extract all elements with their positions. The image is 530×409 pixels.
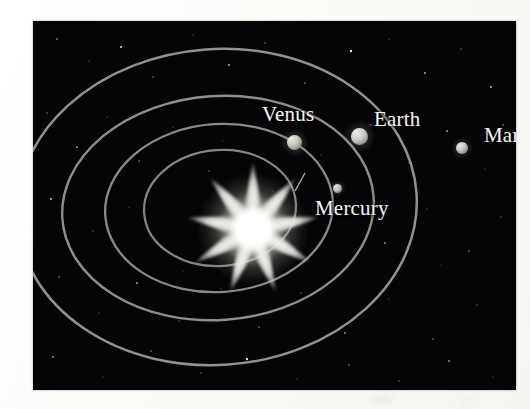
- night-sky-background: Venus Earth Mars Mercury: [33, 21, 516, 390]
- orbit-diagram: [33, 21, 516, 390]
- label-mars: Mars: [484, 125, 516, 146]
- astronomy-plate: Venus Earth Mars Mercury: [33, 21, 516, 390]
- orbit-mercury: [140, 145, 300, 271]
- mercury-leader-line: [295, 173, 305, 191]
- label-venus: Venus: [262, 104, 314, 125]
- label-mercury: Mercury: [315, 198, 389, 219]
- scan-smudge: [458, 400, 472, 404]
- figure-page: Venus Earth Mars Mercury: [0, 0, 530, 409]
- scan-smudge: [372, 396, 394, 402]
- orbit-venus: [99, 116, 338, 299]
- label-earth: Earth: [374, 109, 420, 130]
